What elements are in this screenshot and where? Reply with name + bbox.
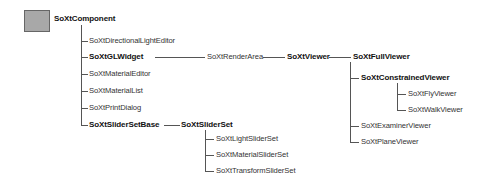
connector-line	[81, 57, 88, 58]
connector-line	[329, 57, 351, 58]
node-print-dialog: SoXtPrintDialog	[89, 103, 141, 113]
node-gl-widget: SoXtGLWidget	[89, 52, 143, 62]
connector-line	[81, 74, 88, 75]
connector-line	[397, 110, 406, 111]
connector-line	[350, 78, 359, 79]
connector-line	[81, 41, 88, 42]
connector-line	[205, 171, 214, 172]
node-render-area: SoXtRenderArea	[207, 52, 263, 62]
node-light-slider-set: SoXtLightSliderSet	[216, 134, 278, 144]
node-full-viewer: SoXtFullViewer	[353, 52, 410, 62]
node-material-slider-set: SoXtMaterialSliderSet	[216, 150, 288, 160]
node-material-editor: SoXtMaterialEditor	[89, 69, 151, 79]
connector-line	[350, 142, 359, 143]
root-class-box-icon	[24, 10, 50, 32]
connector-line	[81, 108, 88, 109]
node-constrained-viewer: SoXtConstrainedViewer	[361, 73, 449, 83]
node-fly-viewer: SoXtFlyViewer	[408, 89, 456, 99]
connector-line	[350, 126, 359, 127]
connector-line	[205, 139, 214, 140]
connector-line	[205, 155, 214, 156]
node-examiner-viewer: SoXtExaminerViewer	[361, 121, 431, 131]
connector-line	[397, 83, 398, 110]
node-plane-viewer: SoXtPlaneViewer	[361, 137, 418, 147]
node-material-list: SoXtMaterialList	[89, 86, 143, 96]
connector-line	[350, 62, 351, 142]
connector-line	[397, 94, 406, 95]
node-slider-set: SoXtSliderSet	[181, 120, 233, 130]
node-transform-slider-set: SoXtTransformSliderSet	[216, 166, 295, 176]
connector-line	[164, 125, 180, 126]
node-soxtcomponent: SoXtComponent	[54, 14, 115, 24]
node-slider-set-base: SoXtSliderSetBase	[89, 120, 159, 130]
node-directional-light-editor: SoXtDirectionalLightEditor	[89, 36, 175, 46]
node-walk-viewer: SoXtWalkViewer	[408, 105, 463, 115]
connector-line	[205, 130, 206, 171]
connector-line	[155, 57, 205, 58]
connector-line	[81, 91, 88, 92]
connector-line	[81, 125, 88, 126]
node-viewer: SoXtViewer	[287, 52, 330, 62]
connector-line	[263, 57, 285, 58]
